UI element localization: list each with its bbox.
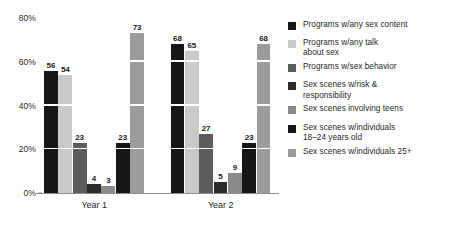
bars-layer: 565423432373Year 1686527592368Year 2 xyxy=(40,18,275,193)
legend-item-label: Sex scenes involving teens xyxy=(303,104,403,115)
legend-item[interactable]: Programs w/any talk about sex xyxy=(288,38,448,59)
y-tick-label: 60% xyxy=(19,57,36,67)
bar: 9 xyxy=(228,173,242,193)
legend-item[interactable]: Programs w/any sex content xyxy=(288,20,448,31)
bar-value-label: 3 xyxy=(106,176,110,185)
bar: 23 xyxy=(73,143,87,193)
legend-item[interactable]: Sex scenes involving teens xyxy=(288,104,448,115)
bar-value-label: 68 xyxy=(173,34,182,43)
bar-value-label: 4 xyxy=(92,174,96,183)
gridline xyxy=(40,17,275,19)
y-tick-label: 80% xyxy=(19,13,36,23)
gridline xyxy=(40,104,275,106)
bar-value-label: 65 xyxy=(187,41,196,50)
legend-item[interactable]: Sex scenes w/individuals 18–24 years old xyxy=(288,123,448,144)
bar: 68 xyxy=(171,44,185,193)
bar-value-label: 54 xyxy=(61,65,70,74)
gridline xyxy=(40,60,275,62)
bar: 73 xyxy=(130,33,144,193)
bar: 23 xyxy=(116,143,130,193)
legend-swatch-icon xyxy=(288,149,296,157)
plot-area: 80%60%40%20%0% 565423432373Year 16865275… xyxy=(40,18,275,193)
legend-item-label: Programs w/any talk about sex xyxy=(303,38,378,59)
legend-item-label: Programs w/any sex content xyxy=(303,20,408,31)
bar-value-label: 9 xyxy=(233,163,237,172)
bar-value-label: 73 xyxy=(133,23,142,32)
bar: 5 xyxy=(214,182,228,193)
legend-item[interactable]: Sex scenes w/risk & responsibility xyxy=(288,80,448,101)
bar-value-label: 23 xyxy=(75,133,84,142)
legend-swatch-icon xyxy=(288,22,296,30)
bar-value-label: 5 xyxy=(218,172,222,181)
legend-swatch-icon xyxy=(288,106,296,114)
bar: 65 xyxy=(185,51,199,193)
legend-item-label: Sex scenes w/individuals 18–24 years old xyxy=(303,123,395,144)
bar-value-label: 68 xyxy=(259,34,268,43)
gridline xyxy=(40,148,275,150)
legend-item[interactable]: Programs w/sex behavior xyxy=(288,62,448,73)
bar: 23 xyxy=(242,143,256,193)
legend-item-label: Programs w/sex behavior xyxy=(303,62,397,73)
legend-item[interactable]: Sex scenes w/individuals 25+ xyxy=(288,147,448,158)
y-tick-label: 0% xyxy=(24,188,37,198)
y-tick-label: 40% xyxy=(19,101,36,111)
bar-value-label: 27 xyxy=(202,124,211,133)
x-group-label: Year 2 xyxy=(208,200,234,210)
bar-value-label: 56 xyxy=(47,61,56,70)
legend-swatch-icon xyxy=(288,125,296,133)
chart-legend: Programs w/any sex contentPrograms w/any… xyxy=(288,20,448,157)
bar: 68 xyxy=(257,44,271,193)
legend-item-label: Sex scenes w/individuals 25+ xyxy=(303,147,412,158)
x-group-label: Year 1 xyxy=(81,200,107,210)
bar: 54 xyxy=(58,75,72,193)
bar-chart-figure: 80%60%40%20%0% 565423432373Year 16865275… xyxy=(0,0,450,229)
legend-swatch-icon xyxy=(288,40,296,48)
bar-value-label: 23 xyxy=(118,133,127,142)
y-axis: 80%60%40%20%0% xyxy=(2,18,36,193)
legend-item-label: Sex scenes w/risk & responsibility xyxy=(303,80,377,101)
bar: 56 xyxy=(44,71,58,194)
legend-swatch-icon xyxy=(288,82,296,90)
x-axis-line xyxy=(36,193,279,195)
bar-value-label: 23 xyxy=(245,133,254,142)
legend-swatch-icon xyxy=(288,64,296,72)
bar: 27 xyxy=(199,134,213,193)
y-tick-label: 20% xyxy=(19,144,36,154)
